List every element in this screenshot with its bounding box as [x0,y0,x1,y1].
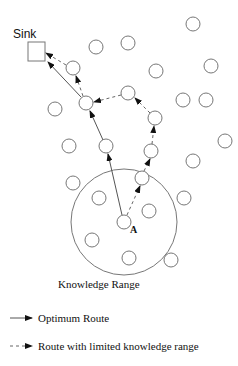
sensor-node [89,40,103,54]
sensor-node [199,93,213,107]
legend-optimum-label: Optimum Route [38,312,109,324]
node-a [117,215,131,229]
optimum-route-segment [90,111,103,140]
sensor-node [186,154,200,168]
sensor-node [92,191,106,205]
knowledge-range-label: Knowledge Range [58,278,140,290]
sensor-node [142,204,156,218]
sensor-node [121,86,135,100]
legend: Optimum Route Route with limited knowled… [10,312,199,352]
sensor-node [186,17,200,31]
sensor-node [149,64,163,78]
sensor-node [121,36,135,50]
sensor-nodes [48,17,232,267]
sensor-node [148,111,162,125]
limited-route-segment [94,95,121,102]
sink-node [28,42,45,61]
node-a-label: A [130,224,138,235]
optimum-route [48,62,122,215]
routing-diagram: Sink A Knowledge Range Optimum Route Rou… [0,0,238,366]
sensor-node [66,176,80,190]
sensor-node [122,251,136,265]
optimum-route-segment [108,154,122,215]
limited-route-segment [135,98,150,113]
sensor-node [144,144,158,158]
sensor-node [135,171,149,185]
sink-label: Sink [13,27,37,41]
sensor-node [218,134,232,148]
legend-limited-label: Route with limited knowledge range [38,340,199,352]
sensor-node [79,96,93,110]
sensor-node [48,102,62,116]
sensor-node [85,233,99,247]
limited-route-segment [127,186,140,215]
sensor-node [62,139,76,153]
sensor-node [177,191,191,205]
sensor-node [99,139,113,153]
sensor-node [176,93,190,107]
limited-route-segment [152,126,154,144]
sensor-node [66,61,80,75]
limited-route-segment [144,159,150,171]
sensor-node [204,59,218,73]
sensor-node [164,253,178,267]
